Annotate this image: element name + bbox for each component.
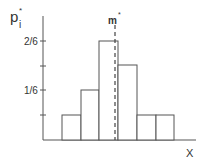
x-axis-label: X [186, 147, 194, 159]
y-axis-label-subscript: i [19, 19, 21, 30]
bar-6 [156, 115, 174, 140]
y-tick-label-2-6: 2/6 [24, 36, 38, 47]
bar-4 [118, 65, 137, 140]
bar-2 [81, 90, 99, 140]
bar-1 [62, 115, 81, 140]
marker-label-superscript: * [118, 11, 121, 18]
y-axis-label: p [10, 8, 18, 25]
marker-label: m [108, 15, 117, 26]
y-tick-label-1-6: 1/6 [24, 85, 38, 96]
bar-5 [137, 115, 156, 140]
histogram-chart: p i * 2/6 1/6 m * X [0, 0, 204, 163]
bars [62, 41, 174, 140]
y-axis-label-superscript: * [19, 6, 22, 15]
